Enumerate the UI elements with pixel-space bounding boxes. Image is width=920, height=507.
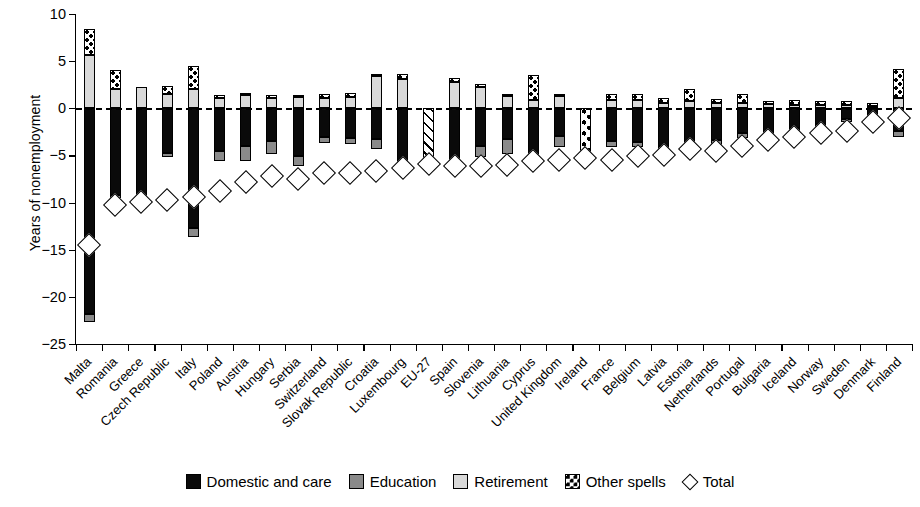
x-axis-tick: [154, 344, 155, 351]
x-axis-tick: [416, 344, 417, 351]
total-marker: [469, 154, 493, 178]
x-axis-tick: [834, 344, 835, 351]
x-axis-tick: [755, 344, 756, 351]
y-axis-tick-label: −10: [41, 195, 66, 210]
bar-segment: [240, 93, 251, 95]
bar-segment: [84, 55, 95, 108]
legend-item-retirement[interactable]: Retirement: [453, 473, 547, 490]
total-marker: [417, 152, 441, 176]
x-axis-tick: [599, 344, 600, 351]
x-axis-tick: [912, 344, 913, 351]
legend-label: Education: [370, 473, 437, 490]
bar-segment: [606, 94, 617, 100]
bar-segment: [188, 89, 199, 108]
total-marker: [77, 233, 101, 257]
diamond-icon: [683, 475, 697, 489]
bar-segment: [214, 98, 225, 108]
total-marker: [547, 148, 571, 172]
bar-segment: [554, 94, 565, 96]
bar-segment: [293, 156, 304, 165]
bar-segment: [554, 96, 565, 108]
bar-latvia[interactable]: [658, 14, 669, 344]
total-marker: [208, 179, 232, 203]
bar-segment: [188, 228, 199, 236]
bar-malta[interactable]: [84, 14, 95, 344]
bar-segment: [162, 94, 173, 108]
bar-norway[interactable]: [815, 14, 826, 344]
x-axis-tick: [886, 344, 887, 351]
bar-romania[interactable]: [110, 14, 121, 344]
bar-segment: [684, 89, 695, 100]
legend-item-other[interactable]: Other spells: [565, 473, 666, 490]
total-marker: [129, 190, 153, 214]
legend-swatch-icon: [349, 474, 364, 489]
bar-eu-27[interactable]: [423, 14, 434, 344]
bar-segment: [867, 103, 878, 107]
x-axis-tick: [363, 344, 364, 351]
bar-finland[interactable]: [893, 14, 904, 344]
total-marker: [103, 193, 127, 217]
bar-ireland[interactable]: [580, 14, 591, 344]
bar-lithuania[interactable]: [502, 14, 513, 344]
bar-segment: [266, 95, 277, 98]
x-axis-tick: [860, 344, 861, 351]
legend-item-education[interactable]: Education: [349, 473, 437, 490]
y-axis-tick: [69, 297, 76, 298]
x-axis-tick: [677, 344, 678, 351]
x-axis-tick: [181, 344, 182, 351]
x-axis-tick: [468, 344, 469, 351]
total-marker: [338, 161, 362, 185]
legend-item-domestic[interactable]: Domestic and care: [186, 473, 332, 490]
x-axis-tick: [520, 344, 521, 351]
bar-segment: [162, 153, 173, 158]
bar-belgium[interactable]: [632, 14, 643, 344]
bar-spain[interactable]: [449, 14, 460, 344]
bar-france[interactable]: [606, 14, 617, 344]
bar-united-kingdom[interactable]: [554, 14, 565, 344]
total-marker: [730, 134, 754, 158]
bar-cyprus[interactable]: [528, 14, 539, 344]
total-marker: [155, 188, 179, 212]
bar-segment: [684, 101, 695, 109]
bar-segment: [449, 78, 460, 82]
bar-segment: [737, 94, 748, 102]
bar-bulgaria[interactable]: [763, 14, 774, 344]
bar-segment: [502, 139, 513, 153]
legend-item-total[interactable]: Total: [683, 473, 735, 490]
bar-estonia[interactable]: [684, 14, 695, 344]
bar-segment: [711, 108, 722, 140]
bar-greece[interactable]: [136, 14, 147, 344]
bar-segment: [240, 146, 251, 161]
bar-portugal[interactable]: [737, 14, 748, 344]
bar-segment: [528, 100, 539, 108]
x-axis-tick: [207, 344, 208, 351]
bar-iceland[interactable]: [789, 14, 800, 344]
bar-segment: [110, 70, 121, 90]
bar-segment: [893, 131, 904, 137]
bar-segment: [606, 108, 617, 141]
bar-segment: [893, 69, 904, 98]
total-marker: [260, 164, 284, 188]
bar-segment: [293, 108, 304, 156]
bar-denmark[interactable]: [867, 14, 878, 344]
bar-segment: [319, 94, 330, 98]
y-axis-tick-label: −15: [41, 242, 66, 257]
y-axis-tick: [69, 61, 76, 62]
bar-segment: [371, 139, 382, 148]
bar-slovenia[interactable]: [475, 14, 486, 344]
x-axis-tick: [546, 344, 547, 351]
legend-label: Other spells: [586, 473, 666, 490]
total-marker: [652, 143, 676, 167]
bar-czech-republic[interactable]: [162, 14, 173, 344]
bar-netherlands[interactable]: [711, 14, 722, 344]
bar-sweden[interactable]: [841, 14, 852, 344]
x-axis-tick: [390, 344, 391, 351]
legend-label: Total: [703, 473, 735, 490]
total-marker: [364, 158, 388, 182]
total-marker: [573, 146, 597, 170]
bar-segment: [136, 87, 147, 109]
bar-italy[interactable]: [188, 14, 199, 344]
x-axis-tick: [808, 344, 809, 351]
bar-segment: [319, 108, 330, 136]
x-axis-tick: [337, 344, 338, 351]
